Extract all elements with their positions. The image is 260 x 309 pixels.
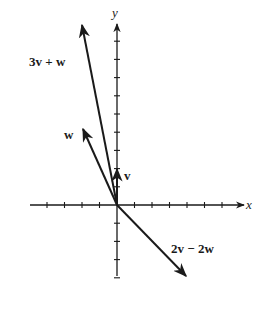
x-axis: x xyxy=(30,197,252,212)
vector-label-2v-minus-2w: 2v − 2w xyxy=(171,241,214,256)
vector-2v-minus-2w: 2v − 2w xyxy=(117,205,214,276)
vector-label-3v-plus-w: 3v + w xyxy=(29,54,66,69)
vector-diagram: x y 3v + w w v 2v − 2w xyxy=(0,0,260,309)
x-axis-label: x xyxy=(245,197,252,212)
y-axis: y xyxy=(110,5,120,278)
vector-label-v: v xyxy=(124,168,131,183)
vector-label-w: w xyxy=(64,127,74,142)
y-axis-label: y xyxy=(110,5,118,20)
vector-3v-plus-w: 3v + w xyxy=(29,25,117,205)
